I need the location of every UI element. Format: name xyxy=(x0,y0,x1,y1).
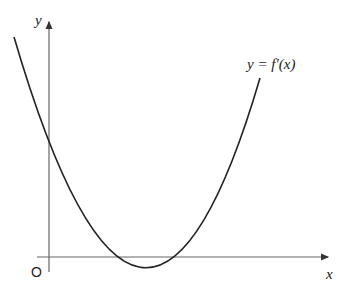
y-axis-label: y xyxy=(33,12,42,28)
derivative-curve xyxy=(14,37,260,268)
curve-label: y = f′(x) xyxy=(245,56,295,73)
origin-label: O xyxy=(31,264,42,280)
derivative-graph: y x O y = f′(x) xyxy=(0,0,350,291)
x-axis-label: x xyxy=(325,266,333,282)
